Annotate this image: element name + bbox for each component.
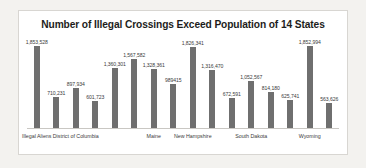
bar-slot: 625,741 bbox=[281, 37, 301, 128]
bar-value-label: 1,052,567 bbox=[240, 74, 262, 80]
bar-value-label: 989415 bbox=[165, 77, 182, 83]
bar-value-label: 1,360,301 bbox=[104, 61, 126, 67]
bar-value-label: 1,853,528 bbox=[26, 39, 48, 45]
bar-value-label: 1,316,470 bbox=[201, 63, 223, 69]
bar[interactable] bbox=[34, 46, 40, 128]
bar[interactable] bbox=[151, 69, 157, 128]
bar-value-label: 1,567,582 bbox=[123, 52, 145, 58]
bar-value-label: 625,741 bbox=[281, 93, 299, 99]
bar-value-label: 814,180 bbox=[262, 85, 280, 91]
bar-slot: 672,591 bbox=[222, 37, 242, 128]
bar[interactable] bbox=[170, 84, 176, 128]
bar-slot: 1,853,528 bbox=[27, 37, 47, 128]
bar[interactable] bbox=[53, 97, 59, 128]
bar-slot: 1,052,567 bbox=[242, 37, 262, 128]
bar-slot: 563,626 bbox=[320, 37, 340, 128]
bar-slot: 1,852,994 bbox=[300, 37, 320, 128]
bar-slot: 601,723 bbox=[86, 37, 106, 128]
bar-value-label: 710,231 bbox=[47, 90, 65, 96]
bar[interactable] bbox=[112, 68, 118, 128]
bar[interactable] bbox=[307, 46, 313, 128]
chart-card: Number of Illegal Crossings Exceed Popul… bbox=[18, 10, 348, 155]
bar[interactable] bbox=[248, 81, 254, 128]
plot-area: 1,853,528710,231897,934601,7231,360,3011… bbox=[27, 37, 339, 128]
x-axis-tick-label: Wyoming bbox=[299, 133, 321, 139]
bar-slot: 897,934 bbox=[66, 37, 86, 128]
bar[interactable] bbox=[92, 101, 98, 128]
chart-title: Number of Illegal Crossings Exceed Popul… bbox=[19, 19, 347, 30]
bar-value-label: 601,723 bbox=[86, 94, 104, 100]
x-axis-tick-label: Illegal Aliens bbox=[22, 133, 51, 139]
bar[interactable] bbox=[268, 92, 274, 128]
bar-slot: 1,328,361 bbox=[144, 37, 164, 128]
bar-slot: 1,316,470 bbox=[203, 37, 223, 128]
bar-slot: 1,567,582 bbox=[125, 37, 145, 128]
bar[interactable] bbox=[73, 88, 79, 128]
bar[interactable] bbox=[287, 100, 293, 128]
bar-value-label: 1,852,994 bbox=[299, 39, 321, 45]
x-axis-tick-labels: Illegal AliensDistrict of ColumbiaMaineN… bbox=[27, 130, 339, 146]
bar[interactable] bbox=[131, 59, 137, 128]
x-axis-tick-label: South Dakota bbox=[235, 133, 267, 139]
bar[interactable] bbox=[209, 70, 215, 128]
bar-slot: 814,180 bbox=[261, 37, 281, 128]
x-axis-tick-label: Maine bbox=[147, 133, 161, 139]
bar-value-label: 563,626 bbox=[320, 96, 338, 102]
x-axis-tick-label: New Hampshire bbox=[174, 133, 212, 139]
bar-slot: 1,360,301 bbox=[105, 37, 125, 128]
bar-slot: 989415 bbox=[164, 37, 184, 128]
bar[interactable] bbox=[190, 47, 196, 128]
bar-value-label: 672,591 bbox=[223, 91, 241, 97]
x-axis-tick-label: District of Columbia bbox=[53, 133, 99, 139]
bar[interactable] bbox=[229, 98, 235, 128]
bar-value-label: 1,826,341 bbox=[182, 40, 204, 46]
bar[interactable] bbox=[326, 103, 332, 128]
bar-slot: 710,231 bbox=[47, 37, 67, 128]
bar-value-label: 1,328,361 bbox=[143, 62, 165, 68]
bar-value-label: 897,934 bbox=[67, 81, 85, 87]
x-axis-line bbox=[27, 128, 339, 129]
bar-slot: 1,826,341 bbox=[183, 37, 203, 128]
